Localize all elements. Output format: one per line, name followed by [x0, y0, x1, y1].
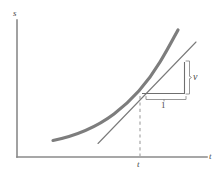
rise-bracket — [186, 61, 190, 94]
rise-label-v: v — [193, 72, 197, 82]
position-curve — [53, 30, 178, 141]
x-axis-tick-label-t: t — [137, 160, 140, 169]
position-time-graph — [0, 0, 221, 174]
figure-container: s t t v 1 — [0, 0, 221, 174]
run-label-one: 1 — [161, 101, 166, 110]
rise-bracket-tip — [190, 76, 192, 79]
y-axis-label: s — [13, 9, 17, 18]
run-bracket — [146, 97, 186, 100]
tangent-line — [98, 42, 196, 144]
x-axis-label: t — [209, 152, 212, 161]
